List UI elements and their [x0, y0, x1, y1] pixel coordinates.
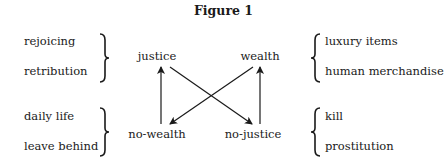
brace-right-bottom [311, 108, 320, 156]
brace-left-top [100, 34, 109, 82]
brace-left-bottom [100, 108, 109, 156]
brace-right-top [311, 34, 320, 82]
diagram-graphics [0, 0, 447, 168]
